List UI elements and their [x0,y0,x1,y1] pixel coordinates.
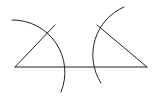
right-triangle-side [97,25,147,67]
geometry-diagram [0,0,158,100]
left-construction-arc [12,20,65,92]
left-triangle-side [15,25,55,67]
right-construction-arc [93,7,124,83]
